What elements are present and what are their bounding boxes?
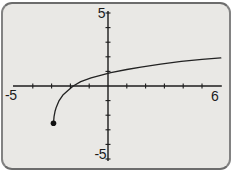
y-axis-min-tick-label: -5 [80, 147, 106, 161]
x-axis-min-tick-label: -5 [5, 88, 16, 102]
x-axis-max-tick-label: 6 [211, 89, 218, 103]
curve-endpoint-dot [51, 120, 57, 126]
plot-area [0, 0, 234, 173]
graph-figure: 5 -5 -5 6 [0, 0, 234, 173]
y-axis-max-tick-label: 5 [85, 6, 105, 20]
curve-logarithmic-curve [53, 58, 220, 123]
